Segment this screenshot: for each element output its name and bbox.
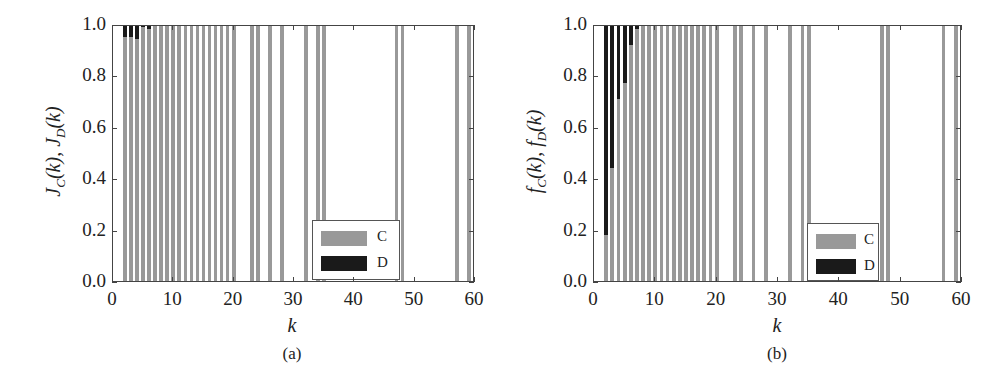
bar-k-11 xyxy=(177,25,181,281)
y-tick-mark xyxy=(593,231,598,232)
x-tick-mark xyxy=(961,25,962,30)
bar-k-16 xyxy=(208,25,212,281)
legend: C D xyxy=(807,223,879,281)
bar-k-24 xyxy=(739,25,743,281)
bar-k-5 xyxy=(141,25,145,281)
bar-segment-d xyxy=(129,25,133,37)
x-tick-mark xyxy=(172,25,173,30)
x-tick-label: 30 xyxy=(757,288,797,310)
y-tick-label: 0.2 xyxy=(547,219,587,241)
x-tick-mark xyxy=(900,25,901,30)
bar-segment-c xyxy=(123,37,127,281)
x-tick-mark xyxy=(900,277,901,282)
x-tick-label: 10 xyxy=(152,288,192,310)
bar-segment-c xyxy=(647,25,651,281)
bar-segment-c xyxy=(635,29,639,281)
bar-k-7 xyxy=(153,25,157,281)
x-tick-mark xyxy=(777,25,778,30)
bar-segment-d xyxy=(629,25,633,45)
y-tick-mark xyxy=(593,179,598,180)
bar-segment-c xyxy=(202,25,206,281)
x-tick-label: 0 xyxy=(92,288,132,310)
bar-segment-c xyxy=(171,25,175,281)
bar-segment-c xyxy=(672,25,676,281)
x-tick-mark xyxy=(293,25,294,30)
panel-a: JC(k), JD(k) 0.00.20.40.60.81.0 01020304… xyxy=(0,0,496,381)
x-tick-mark xyxy=(414,277,415,282)
bar-k-12 xyxy=(184,25,188,281)
bar-segment-d xyxy=(610,25,614,168)
bar-k-5 xyxy=(623,25,627,281)
bar-segment-c xyxy=(401,25,405,281)
x-tick-label: 40 xyxy=(818,288,858,310)
bar-segment-c xyxy=(684,25,688,281)
bar-segment-c xyxy=(190,25,194,281)
bar-segment-c xyxy=(280,25,284,281)
x-tick-mark xyxy=(233,277,234,282)
y-tick-mark xyxy=(112,231,117,232)
bar-k-3 xyxy=(610,25,614,281)
bar-k-24 xyxy=(256,25,260,281)
bar-segment-c xyxy=(690,25,694,281)
y-tick-mark xyxy=(469,231,474,232)
bar-k-28 xyxy=(764,25,768,281)
y-tick-label: 0.8 xyxy=(66,64,106,86)
legend: C D xyxy=(312,220,400,280)
legend-swatch-d xyxy=(816,259,856,274)
bar-segment-c xyxy=(610,168,614,281)
y-tick-mark xyxy=(112,179,117,180)
y-tick-mark xyxy=(956,179,961,180)
bar-k-18 xyxy=(220,25,224,281)
bar-k-47 xyxy=(880,25,884,281)
bar-segment-c xyxy=(467,25,471,281)
bar-k-19 xyxy=(226,25,230,281)
y-tick-label: 0.6 xyxy=(66,116,106,138)
x-tick-mark xyxy=(474,277,475,282)
bar-k-48 xyxy=(401,25,405,281)
bar-k-34 xyxy=(801,25,805,281)
bar-k-59 xyxy=(467,25,471,281)
bar-segment-c xyxy=(629,45,633,281)
y-tick-label: 1.0 xyxy=(547,13,587,35)
bar-segment-d xyxy=(141,25,145,27)
bar-segment-c xyxy=(715,25,719,281)
bar-segment-c xyxy=(709,25,713,281)
x-tick-mark xyxy=(172,277,173,282)
x-tick-mark xyxy=(838,25,839,30)
y-tick-mark xyxy=(469,128,474,129)
bar-segment-d xyxy=(604,25,608,235)
x-tick-mark xyxy=(293,277,294,282)
bar-segment-d xyxy=(623,25,627,83)
legend-label-c: C xyxy=(864,231,874,248)
bar-k-20 xyxy=(715,25,719,281)
bar-segment-c xyxy=(623,83,627,281)
bar-k-12 xyxy=(666,25,670,281)
bar-segment-c xyxy=(660,25,664,281)
bar-segment-c xyxy=(159,25,163,281)
bar-segment-c xyxy=(177,25,181,281)
panel-b: fC(k), fD(k) 0.00.20.40.60.81.0 01020304… xyxy=(481,0,977,381)
bar-segment-d xyxy=(147,25,151,29)
bar-k-13 xyxy=(672,25,676,281)
bar-k-14 xyxy=(196,25,200,281)
bar-k-10 xyxy=(171,25,175,281)
bar-segment-c xyxy=(304,25,308,281)
y-tick-label: 0.4 xyxy=(66,167,106,189)
y-axis-label: fC(k), fD(k) xyxy=(523,87,550,217)
y-tick-mark xyxy=(469,76,474,77)
x-tick-mark xyxy=(593,25,594,30)
y-tick-mark xyxy=(593,282,598,283)
x-tick-label: 0 xyxy=(573,288,613,310)
bar-k-19 xyxy=(709,25,713,281)
bar-k-20 xyxy=(232,25,236,281)
bar-segment-c xyxy=(880,25,884,281)
y-tick-mark xyxy=(112,282,117,283)
plot-area xyxy=(593,25,961,282)
bar-segment-c xyxy=(129,37,133,281)
bar-segment-c xyxy=(702,25,706,281)
bar-k-4 xyxy=(617,25,621,281)
x-tick-label: 30 xyxy=(273,288,313,310)
y-tick-mark xyxy=(112,128,117,129)
bar-segment-d xyxy=(135,25,139,39)
y-tick-label: 0.8 xyxy=(547,64,587,86)
